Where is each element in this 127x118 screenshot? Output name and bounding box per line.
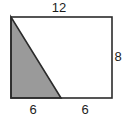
dimension-label-bottom-right: 6 [81, 103, 88, 116]
figure-canvas [0, 0, 127, 118]
dimension-label-right: 8 [114, 50, 121, 63]
dimension-label-bottom-left: 6 [29, 103, 36, 116]
dimension-label-top: 12 [52, 1, 66, 14]
geometry-figure: 12 8 6 6 [0, 0, 127, 118]
